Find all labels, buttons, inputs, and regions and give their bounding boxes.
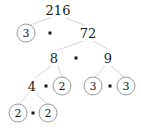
tree-edge (58, 41, 83, 50)
prime-factor-node: 2 (39, 104, 58, 123)
tree-edge (36, 93, 47, 104)
composite-factor-node: 9 (104, 52, 112, 65)
tree-edge (58, 66, 62, 77)
multiplication-dot-icon (32, 112, 35, 115)
prime-factor-node: 3 (17, 24, 36, 43)
tree-edge (95, 66, 105, 77)
multiplication-dot-icon (49, 32, 52, 35)
composite-factor-node: 8 (50, 52, 58, 65)
tree-edge (93, 41, 110, 50)
tree-edge (111, 66, 124, 77)
multiplication-dot-icon (109, 85, 112, 88)
composite-factor-node: 216 (46, 4, 71, 17)
tree-edge (35, 66, 51, 78)
composite-factor-node: 72 (80, 27, 97, 40)
multiplication-dot-icon (75, 57, 78, 60)
composite-factor-node: 4 (28, 80, 36, 93)
prime-factor-node: 2 (9, 104, 28, 123)
prime-factor-node: 3 (117, 77, 136, 96)
prime-factor-node: 2 (53, 77, 72, 96)
prime-factor-node: 3 (84, 77, 103, 96)
tree-edge (66, 18, 84, 25)
factor-tree-figure: 21637289423322 (0, 0, 141, 128)
tree-edge (30, 18, 50, 25)
tree-edge (19, 93, 29, 104)
multiplication-dot-icon (45, 85, 48, 88)
